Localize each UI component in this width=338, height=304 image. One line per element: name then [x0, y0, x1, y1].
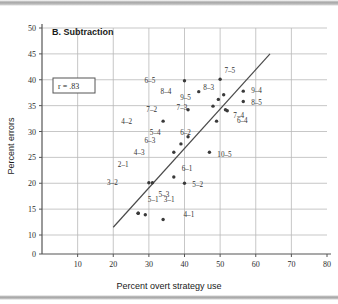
data-point	[183, 182, 186, 185]
data-point-label: 5–4	[150, 129, 161, 137]
data-point-label: 4–1	[183, 211, 194, 219]
y-tick-label: 25	[28, 153, 36, 162]
data-point-label: 9–5	[180, 94, 191, 102]
y-tick-label: 30	[28, 128, 36, 137]
data-point-label: 4–3	[134, 149, 145, 157]
data-point	[161, 218, 164, 221]
data-point-label: 8–3	[203, 84, 214, 92]
y-tick-label: 15	[28, 205, 36, 214]
data-point	[197, 90, 200, 93]
data-point-label: 6–2	[180, 129, 191, 137]
x-tick-label: 70	[287, 260, 295, 269]
y-axis-ticks: 0101520253035404550	[28, 24, 42, 259]
y-tick-label: 0	[32, 250, 36, 259]
y-tick-label: 40	[28, 76, 36, 85]
data-point	[242, 89, 245, 92]
x-tick-label: 20	[109, 260, 117, 269]
data-point-label: 7–4	[233, 112, 244, 120]
data-point-label: 6–3	[145, 137, 156, 145]
data-point	[172, 151, 175, 154]
figure-page: 0101520253035404550 1020304050607080 2–1…	[0, 0, 338, 304]
grid-lines	[42, 28, 327, 254]
data-point-label: 5–2	[192, 181, 203, 189]
y-axis-title: Percent errors	[6, 117, 16, 175]
correlation-label: r = .83	[58, 82, 79, 91]
data-point-label: 9–4	[251, 87, 262, 95]
data-point-label: 5–1	[148, 196, 159, 204]
x-tick-label: 60	[252, 260, 260, 269]
correlation-annotation: r = .83	[53, 78, 95, 93]
data-point	[147, 181, 150, 184]
data-point	[211, 104, 214, 107]
x-axis-title: Percent overt strategy use	[116, 281, 221, 291]
data-point	[161, 119, 164, 122]
data-point-label: 6–5	[145, 77, 156, 85]
axis-lines	[42, 24, 331, 254]
y-tick-label: 20	[28, 179, 36, 188]
x-tick-label: 80	[323, 260, 331, 269]
data-point	[136, 212, 139, 215]
data-point-label: 8–4	[161, 88, 172, 96]
data-point	[224, 108, 227, 111]
scatter-plot-svg: 0101520253035404550 1020304050607080 2–1…	[0, 6, 338, 296]
data-point	[218, 78, 221, 81]
data-point	[151, 181, 154, 184]
data-point-label: 2–1	[118, 161, 129, 169]
data-point-label: 10–5	[217, 151, 232, 159]
y-tick-label: 45	[28, 50, 36, 59]
data-point-label: 3–2	[107, 179, 118, 187]
y-tick-label: 10	[28, 231, 36, 240]
x-tick-label: 30	[145, 260, 153, 269]
data-point-label: 8–5	[251, 99, 262, 107]
data-point	[183, 79, 186, 82]
data-point	[222, 93, 225, 96]
data-point-label: 6–1	[182, 165, 193, 173]
data-point	[144, 213, 147, 216]
data-point-label: 7–3	[177, 104, 188, 112]
x-axis-ticks: 1020304050607080	[74, 254, 331, 269]
data-point	[179, 142, 182, 145]
data-point	[172, 175, 175, 178]
x-tick-label: 50	[216, 260, 224, 269]
y-tick-label: 50	[28, 24, 36, 33]
panel-title: B. Subtraction	[52, 27, 114, 37]
x-tick-label: 40	[181, 260, 189, 269]
data-point	[208, 151, 211, 154]
data-point-label: 5–3	[159, 191, 170, 199]
data-point-label: 4–2	[121, 118, 132, 126]
scatter-plot-figure: 0101520253035404550 1020304050607080 2–1…	[0, 6, 338, 296]
data-point	[215, 119, 218, 122]
data-point-label: 7–2	[146, 106, 157, 114]
x-tick-label: 10	[74, 260, 82, 269]
data-point	[217, 98, 220, 101]
y-tick-label: 35	[28, 102, 36, 111]
data-point-label: 7–5	[224, 67, 235, 75]
data-point	[242, 100, 245, 103]
